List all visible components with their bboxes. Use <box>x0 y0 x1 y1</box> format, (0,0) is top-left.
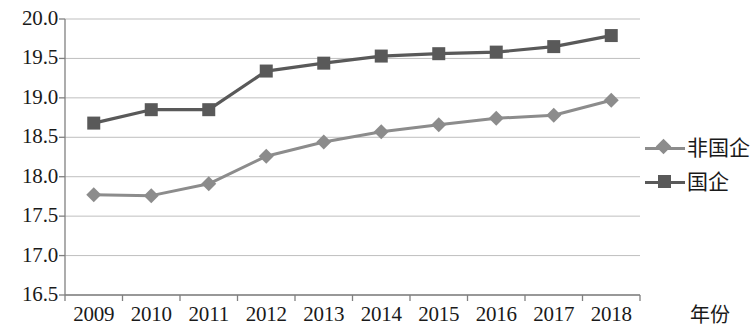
data-point-marker-diamond <box>201 176 216 191</box>
line-chart: 16.517.017.518.018.519.019.520.0 2009201… <box>0 0 753 333</box>
x-axis-tick-labels: 2009201020112012201320142015201620172018 <box>0 303 753 333</box>
data-point-marker-square <box>260 65 273 78</box>
data-point-marker-diamond <box>489 111 504 126</box>
legend: 非国企 国企 <box>645 131 753 199</box>
data-point-marker-square <box>547 40 560 53</box>
series-soe <box>87 29 618 130</box>
plot-area <box>0 0 753 333</box>
data-point-marker-diamond <box>431 117 446 132</box>
data-point-marker-diamond <box>316 135 331 150</box>
series-line <box>94 36 612 124</box>
data-point-marker-square <box>317 57 330 70</box>
legend-marker-square-icon <box>645 172 685 192</box>
legend-marker-diamond-icon <box>645 138 685 158</box>
data-point-marker-diamond <box>144 188 159 203</box>
data-point-marker-square <box>605 29 618 42</box>
x-axis-title: 年份 <box>690 304 730 327</box>
data-point-marker-diamond <box>604 93 619 108</box>
data-point-marker-square <box>145 103 158 116</box>
data-point-marker-square <box>490 46 503 59</box>
data-point-marker-square <box>375 50 388 63</box>
data-point-marker-square <box>432 47 445 60</box>
series-line <box>94 100 612 195</box>
x-axis-tick-label: 2018 <box>573 303 649 326</box>
legend-entry-nonsoe[interactable]: 非国企 <box>645 131 753 165</box>
legend-entry-soe[interactable]: 国企 <box>645 165 753 199</box>
legend-label-nonsoe: 非国企 <box>685 137 750 159</box>
data-point-marker-square <box>202 103 215 116</box>
legend-label-soe: 国企 <box>685 171 729 193</box>
data-point-marker-diamond <box>259 149 274 164</box>
x-axis-ticks <box>65 295 640 301</box>
data-point-marker-diamond <box>546 108 561 123</box>
data-point-marker-diamond <box>86 187 101 202</box>
data-point-marker-square <box>87 117 100 130</box>
